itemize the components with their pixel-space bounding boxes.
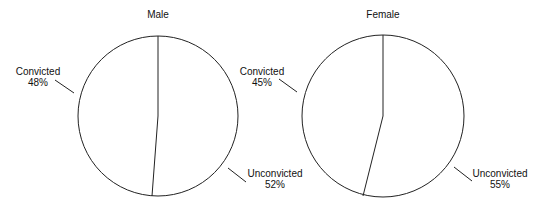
male-pie: Male Convicted 48% xyxy=(16,9,246,196)
male-title: Male xyxy=(147,9,169,20)
male-convicted-pct: 48% xyxy=(28,77,48,88)
female-unconvicted-leader xyxy=(454,167,472,181)
female-convicted-label: Convicted xyxy=(240,66,284,77)
male-convicted-label: Convicted xyxy=(16,66,60,77)
female-unconvicted-pct: 55% xyxy=(490,179,510,190)
pie-charts: Male Convicted 48% Female Convicted 45% … xyxy=(0,0,542,209)
male-unconvicted-pct: 52% xyxy=(265,179,285,190)
female-convicted-leader xyxy=(279,79,297,92)
female-unconvicted-label: Unconvicted xyxy=(472,168,527,179)
female-convicted-pct: 45% xyxy=(252,77,272,88)
male-unconvicted-label: Unconvicted xyxy=(247,168,302,179)
male-convicted-leader xyxy=(55,80,74,93)
female-title: Female xyxy=(366,9,400,20)
male-unconvicted-leader xyxy=(228,168,246,182)
